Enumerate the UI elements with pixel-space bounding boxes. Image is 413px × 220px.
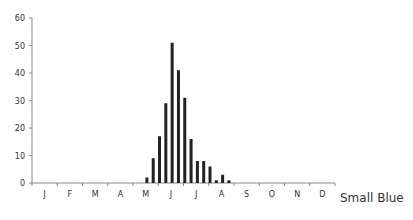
- bar: [183, 98, 186, 183]
- x-tick-label: O: [269, 190, 275, 199]
- bar: [202, 161, 205, 183]
- x-tick-label: J: [194, 190, 197, 199]
- bar: [152, 158, 155, 183]
- x-tick-label: S: [244, 190, 249, 199]
- bar: [145, 178, 148, 184]
- bar: [196, 161, 199, 183]
- bar: [177, 70, 180, 183]
- x-tick-label: N: [294, 190, 300, 199]
- y-tick-label: 60: [15, 14, 25, 23]
- bar: [221, 175, 224, 183]
- y-tick-label: 30: [15, 97, 25, 106]
- bar: [158, 136, 161, 183]
- y-tick-label: 10: [15, 152, 25, 161]
- x-axis: JFMAMJJASOND: [32, 183, 335, 199]
- x-tick-label: A: [219, 190, 225, 199]
- bar: [227, 180, 230, 183]
- y-axis: 0102030405060: [15, 14, 32, 188]
- y-tick-label: 0: [20, 179, 25, 188]
- bar: [215, 180, 218, 183]
- x-tick-label: M: [142, 190, 149, 199]
- bar: [164, 103, 167, 183]
- y-tick-label: 40: [15, 69, 25, 78]
- x-tick-label: D: [319, 190, 325, 199]
- bar: [209, 167, 212, 184]
- y-tick-label: 20: [15, 124, 25, 133]
- x-tick-label: A: [118, 190, 124, 199]
- x-tick-label: M: [92, 190, 99, 199]
- bar: [171, 43, 174, 183]
- bars: [145, 43, 230, 183]
- x-tick-label: F: [68, 190, 73, 199]
- x-tick-label: J: [42, 190, 45, 199]
- y-tick-label: 50: [15, 42, 25, 51]
- bar: [190, 139, 193, 183]
- series-label: Small Blue: [340, 191, 404, 205]
- bar-chart: 0102030405060 JFMAMJJASOND Small Blue: [0, 0, 413, 220]
- x-tick-label: J: [169, 190, 172, 199]
